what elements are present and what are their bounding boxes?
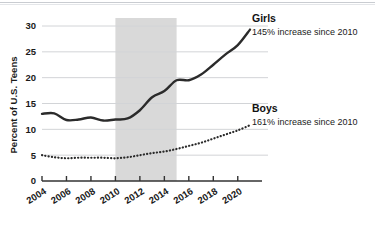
x-tick-label: 2014 xyxy=(147,185,171,206)
x-tick-label: 2018 xyxy=(196,185,220,206)
y-tick-label: 15 xyxy=(25,98,36,109)
y-tick-label: 5 xyxy=(31,150,37,161)
y-tick-label: 25 xyxy=(25,46,36,57)
y-tick-label: 20 xyxy=(25,72,36,83)
series-label-boys: Boys xyxy=(252,102,278,114)
x-tick-label: 2020 xyxy=(220,185,244,206)
series-note-girls: 145% increase since 2010 xyxy=(252,27,358,37)
top-divider-secondary xyxy=(0,4,375,5)
x-tick-label: 2012 xyxy=(122,185,146,206)
top-divider xyxy=(0,2,375,3)
line-chart: 051015202530 200420062008201020122014201… xyxy=(0,0,375,226)
y-tick-label: 0 xyxy=(31,175,36,186)
chart-figure: 051015202530 200420062008201020122014201… xyxy=(0,0,375,226)
x-tick-label: 2004 xyxy=(24,185,48,206)
y-tick-label: 30 xyxy=(25,20,36,31)
x-tick-label: 2006 xyxy=(49,185,73,206)
y-axis-title: Percent of U.S. Teens xyxy=(8,57,19,154)
x-tick-label: 2016 xyxy=(171,185,195,206)
series-note-boys: 161% increase since 2010 xyxy=(252,117,358,127)
y-tick-label: 10 xyxy=(25,124,36,135)
x-tick-label: 2010 xyxy=(98,185,122,206)
y-axis-ticks: 051015202530 xyxy=(25,20,36,186)
x-tick-label: 2008 xyxy=(73,185,97,206)
series-label-girls: Girls xyxy=(252,12,276,24)
